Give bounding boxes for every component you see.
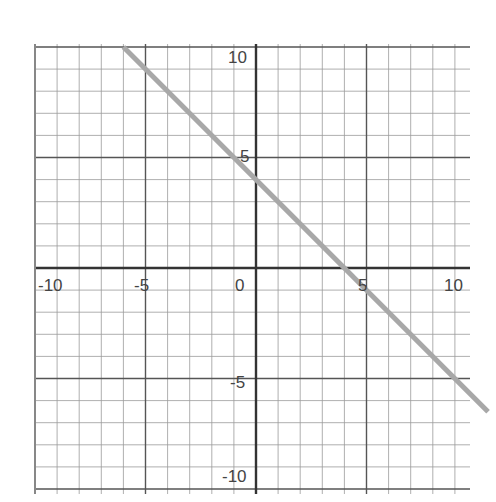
coordinate-plane: -10 -5 0 5 10 10 5 -5 -10 xyxy=(0,0,496,502)
y-tick-label: 10 xyxy=(228,48,247,67)
x-tick-label: -5 xyxy=(134,276,149,295)
x-tick-label: 10 xyxy=(444,276,463,295)
x-tick-label: -10 xyxy=(38,276,63,295)
x-tick-label: 0 xyxy=(235,276,244,295)
plotted-line xyxy=(123,47,488,412)
y-tick-label: -10 xyxy=(222,467,247,486)
x-tick-label: 5 xyxy=(358,276,367,295)
y-tick-label: -5 xyxy=(230,373,245,392)
y-tick-label: 5 xyxy=(240,147,249,166)
function-line xyxy=(123,47,488,412)
